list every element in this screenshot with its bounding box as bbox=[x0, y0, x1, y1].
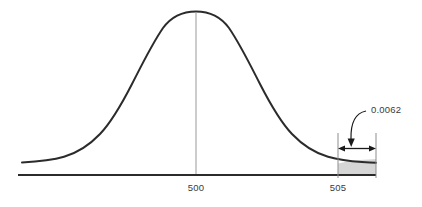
x-tick-label-505: 505 bbox=[330, 182, 346, 193]
x-tick-label-500: 500 bbox=[188, 182, 204, 193]
annotation-arrowhead bbox=[348, 139, 355, 148]
distribution-plot bbox=[0, 0, 422, 207]
normal-curve bbox=[22, 11, 376, 162]
normal-distribution-figure: 500 505 0.0062 bbox=[0, 0, 422, 207]
shaded-area-value-label: 0.0062 bbox=[371, 104, 401, 115]
annotation-leader-line bbox=[351, 111, 366, 139]
width-measure-double-arrow bbox=[338, 146, 376, 152]
